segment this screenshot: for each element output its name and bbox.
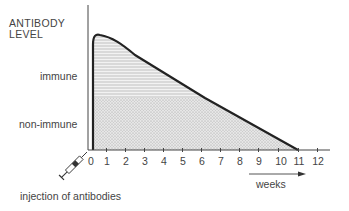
injection-label: injection of antibodies xyxy=(20,190,121,202)
tick-label-6: 6 xyxy=(199,155,205,167)
curve-fill xyxy=(88,30,318,150)
tick-label-9: 9 xyxy=(256,155,262,167)
tick-label-7: 7 xyxy=(218,155,224,167)
tick-label-11: 11 xyxy=(294,155,305,167)
antibody-chart xyxy=(0,0,349,211)
tick-label-0: 0 xyxy=(88,155,94,167)
x-axis-title: weeks xyxy=(256,178,286,190)
tick-label-4: 4 xyxy=(161,155,167,167)
tick-label-5: 5 xyxy=(180,155,186,167)
immune-region xyxy=(88,30,318,98)
tick-label-8: 8 xyxy=(237,155,243,167)
tick-label-2: 2 xyxy=(123,155,129,167)
syringe-icon xyxy=(59,150,89,180)
tick-label-1: 1 xyxy=(104,155,110,167)
tick-label-10: 10 xyxy=(275,155,287,167)
tick-label-12: 12 xyxy=(312,155,324,167)
tick-label-3: 3 xyxy=(142,155,148,167)
weeks-arrow xyxy=(249,172,306,177)
